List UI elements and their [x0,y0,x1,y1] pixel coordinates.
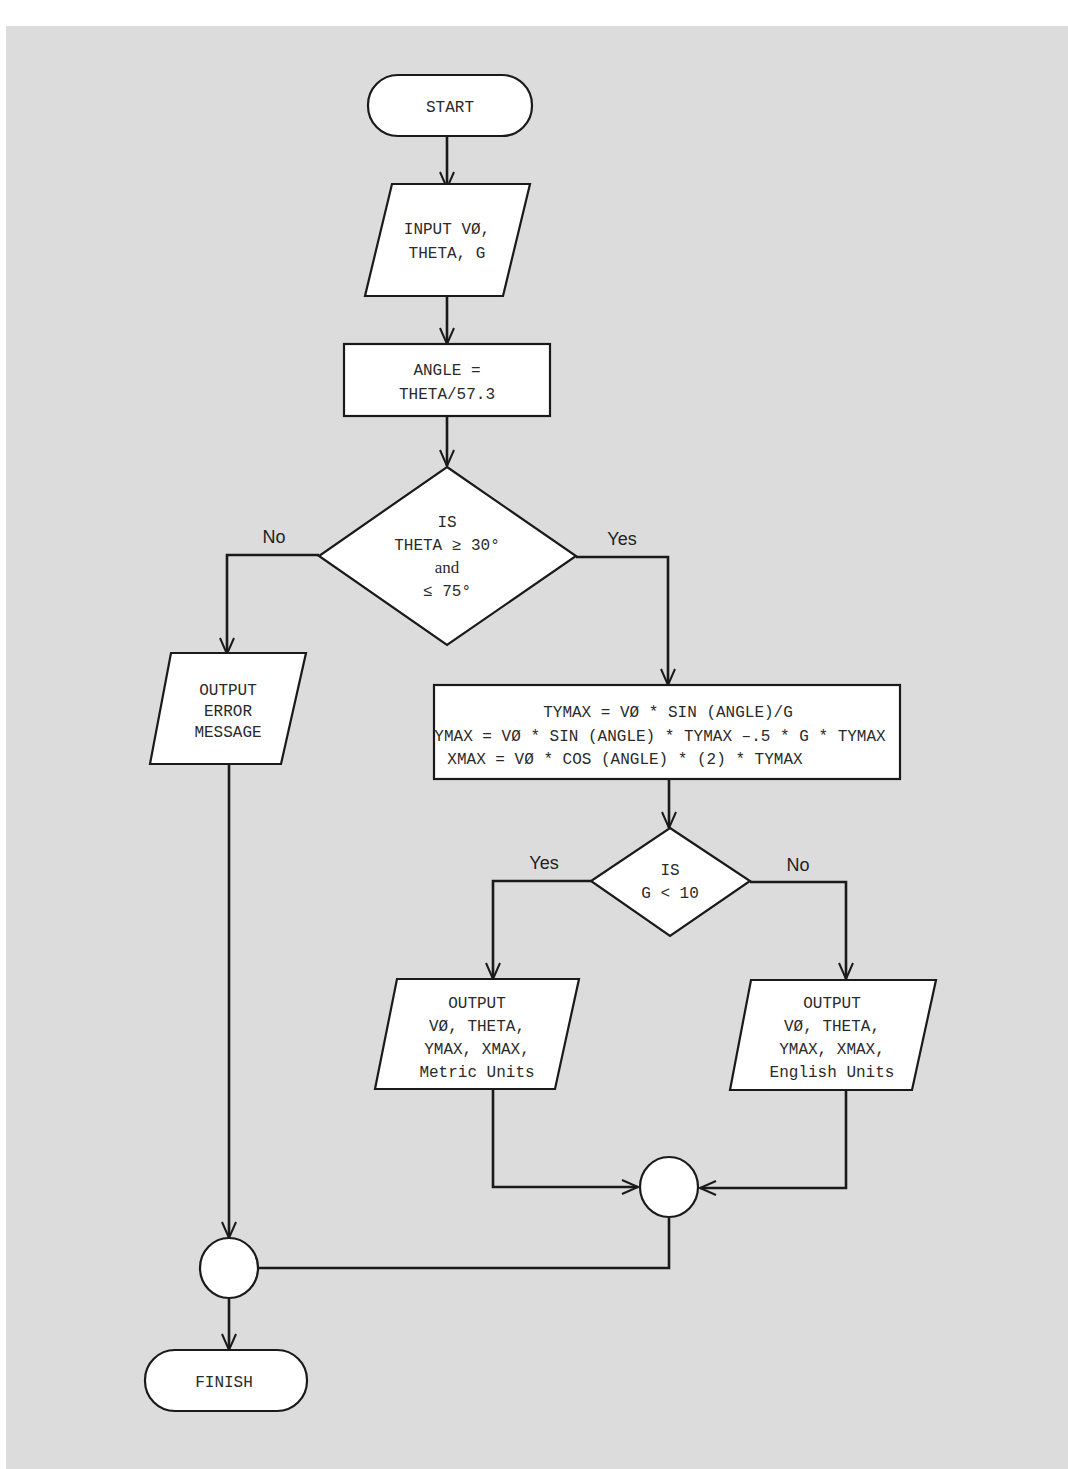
input-line-2: THETA, G [409,245,486,263]
compute-line-1: TYMAX = VØ * SIN (ANGLE)/G [543,704,793,722]
angle-line-2: THETA/57.3 [399,386,495,404]
flowchart: START INPUT VØ, THETA, G ANGLE = THETA/5… [0,0,1068,1469]
connector-circle-merge-all [200,1238,258,1298]
input-line-1: INPUT VØ, [404,221,490,239]
error-line-2: ERROR [204,703,252,721]
compute-line-3: XMAX = VØ * COS (ANGLE) * (2) * TYMAX [447,751,803,769]
start-terminal: START [368,75,532,136]
english-line-4: English Units [770,1064,895,1082]
decision1-yes-label: Yes [607,529,636,549]
decision2-line-1: IS [660,862,679,880]
decision-g-less-10: IS G < 10 [591,828,750,936]
metric-output-node: OUTPUT VØ, THETA, YMAX, XMAX, Metric Uni… [375,979,579,1089]
finish-terminal: FINISH [145,1350,307,1411]
decision1-line-1: IS [437,514,456,532]
english-line-1: OUTPUT [803,995,861,1013]
input-node: INPUT VØ, THETA, G [365,184,530,296]
english-output-node: OUTPUT VØ, THETA, YMAX, XMAX, English Un… [730,980,936,1090]
edge-metric-connector2 [493,1089,638,1187]
start-label: START [426,99,474,117]
english-line-2: VØ, THETA, [784,1018,880,1036]
connector-circle-merge-outputs [640,1157,698,1217]
edge-decision1-no [227,555,319,654]
decision1-line-3: and [435,558,460,577]
metric-line-4: Metric Units [419,1064,534,1082]
angle-line-1: ANGLE = [413,362,480,380]
compute-line-2: YMAX = VØ * SIN (ANGLE) * TYMAX –.5 * G … [434,728,886,746]
decision1-line-4: ≤ 75° [423,583,471,601]
edge-connector2-connector1 [222,1218,669,1268]
edge-decision2-yes [493,881,591,979]
error-line-1: OUTPUT [199,682,257,700]
edge-decision1-yes [576,557,668,685]
finish-label: FINISH [195,1374,253,1392]
compute-process: TYMAX = VØ * SIN (ANGLE)/G YMAX = VØ * S… [434,685,900,779]
decision-theta-range: IS THETA ≥ 30° and ≤ 75° [319,467,576,645]
decision2-no-label: No [786,855,809,875]
decision1-line-2: THETA ≥ 30° [394,537,500,555]
decision2-yes-label: Yes [529,853,558,873]
error-line-3: MESSAGE [194,724,261,742]
metric-line-3: YMAX, XMAX, [424,1041,530,1059]
english-line-3: YMAX, XMAX, [779,1041,885,1059]
metric-line-2: VØ, THETA, [429,1018,525,1036]
edge-english-connector2 [700,1089,846,1188]
metric-line-1: OUTPUT [448,995,506,1013]
decision2-line-2: G < 10 [641,885,699,903]
angle-process: ANGLE = THETA/57.3 [344,344,550,416]
edge-decision2-no [750,882,846,979]
decision1-no-label: No [262,527,285,547]
error-output-node: OUTPUT ERROR MESSAGE [150,653,306,764]
